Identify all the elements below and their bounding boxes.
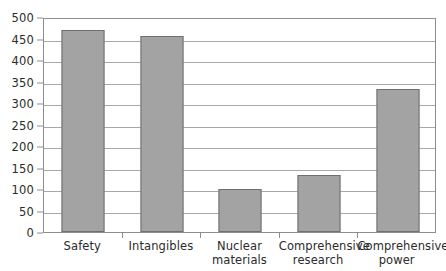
x-axis-category-label-line: power [357,254,436,268]
x-axis-category-label-line: materials [200,254,279,268]
y-axis-tick-label: 450 [2,33,34,47]
bar[interactable] [219,189,262,232]
bars-layer [44,19,435,232]
y-axis-tick-label: 200 [2,140,34,154]
y-axis-tick-label: 250 [2,119,34,133]
x-axis-category-label: Intangibles [122,240,201,254]
x-axis-category-label-line: Comprehensive [279,240,358,254]
plot-area [43,18,436,233]
y-axis-tick-label: 100 [2,183,34,197]
x-axis-category-label: Comprehensiveresearch [279,240,358,267]
x-axis-tick-mark [279,233,280,238]
x-axis-category-label-line: Safety [43,240,122,254]
x-axis-category-label: Safety [43,240,122,254]
y-axis-tick-label: 150 [2,162,34,176]
x-axis-tick-mark [357,233,358,238]
bar-slot [201,19,280,232]
bar-slot [358,19,437,232]
bar[interactable] [140,36,183,232]
bar[interactable] [376,89,419,232]
y-axis-tick-label: 400 [2,54,34,68]
x-axis: SafetyIntangiblesNuclearmaterialsCompreh… [43,233,436,271]
x-axis-tick-mark [200,233,201,238]
bar-slot [280,19,359,232]
x-axis-category-label-line: research [279,254,358,268]
x-axis-category-label-line: Comprehensive [357,240,436,254]
x-axis-category-label-line: Nuclear [200,240,279,254]
bar[interactable] [62,30,105,232]
bar[interactable] [298,175,341,232]
y-axis-tick-label: 300 [2,97,34,111]
y-axis-tick-label: 350 [2,76,34,90]
y-axis-tick-label: 50 [2,205,34,219]
y-axis-tick-label: 500 [2,11,34,25]
x-axis-tick-mark [122,233,123,238]
bar-slot [123,19,202,232]
bar-slot [44,19,123,232]
x-axis-category-label: Comprehensivepower [357,240,436,267]
x-axis-category-label-line: Intangibles [122,240,201,254]
y-axis-tick-label: 0 [2,226,34,240]
x-axis-category-label: Nuclearmaterials [200,240,279,267]
bar-chart: 050100150200250300350400450500 SafetyInt… [0,0,446,271]
